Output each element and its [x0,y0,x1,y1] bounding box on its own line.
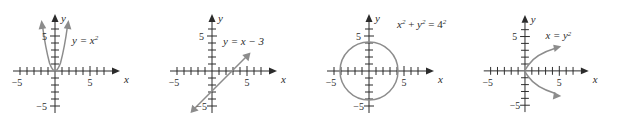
y-min-tick-label: −5 [510,100,521,111]
equation-label: x2 + y2 = 42 [396,18,447,30]
x-max-tick-label: 5 [402,77,407,88]
x-axis-label: x [123,73,129,85]
equation-label: x = y2 [545,29,572,41]
y-axis [364,14,374,113]
y-axis-label: y [530,13,536,25]
y-max-tick-label: 5 [199,31,204,42]
x-axis [327,66,434,76]
y-max-tick-label: 5 [356,31,361,42]
panel-parabola-up: −5 5 5 −5 x y y = x2 [0,0,157,129]
curve-parabola-right [525,45,561,100]
x-axis [170,66,277,76]
x-axis-label: x [437,73,443,85]
y-axis [50,14,60,113]
x-min-tick-label: −5 [326,77,337,88]
graph-figure-strip: −5 5 5 −5 x y y = x2 [0,0,631,129]
x-axis [484,66,589,76]
y-min-tick-label: −5 [36,101,47,112]
y-min-tick-label: −5 [353,101,364,112]
y-min-tick-label: −5 [196,101,207,112]
x-axis-label: x [280,73,286,85]
y-axis-label: y [217,12,223,24]
x-max-tick-label: 5 [245,77,250,88]
panel-circle: −5 5 5 −5 x y x2 + y2 = 42 [314,0,471,129]
y-axis-label: y [374,12,380,24]
panel-parabola-right: −5 5 5 −5 x y x = y2 [471,0,628,129]
x-min-tick-label: −5 [169,77,180,88]
x-axis [13,66,120,76]
y-axis-label: y [60,12,66,24]
x-max-tick-label: 5 [88,77,93,88]
x-max-tick-label: 5 [557,77,562,88]
panel-line: −5 5 5 −5 x y y = x − 3 [157,0,314,129]
y-max-tick-label: 5 [512,31,517,42]
equation-label: y = x2 [71,34,99,46]
y-axis [207,14,217,113]
x-axis-label: x [592,73,598,85]
equation-label: y = x − 3 [222,35,265,47]
y-max-tick-label: 5 [42,31,47,42]
y-axis [520,15,530,112]
x-min-tick-label: −5 [12,77,23,88]
x-min-tick-label: −5 [482,77,493,88]
